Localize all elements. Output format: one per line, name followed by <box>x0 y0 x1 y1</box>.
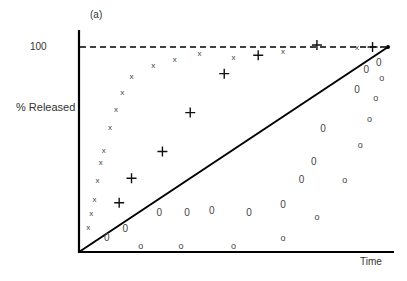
data-markers: xxxxxxxxxxxxxxxx0000000000000oooooooooo <box>86 40 384 251</box>
o-marker: o <box>280 233 285 243</box>
plus-marker <box>157 147 167 157</box>
zero-order-diagonal-line <box>79 47 388 252</box>
o-marker: o <box>358 140 363 150</box>
o-marker: o <box>314 212 319 222</box>
zero-marker: 0 <box>157 207 163 218</box>
o-marker: o <box>342 175 347 185</box>
y-axis-label: % Released <box>16 101 75 113</box>
zero-marker: 0 <box>364 64 370 75</box>
x-marker: x <box>96 176 100 185</box>
plus-marker <box>114 198 124 208</box>
o-marker: o <box>138 241 143 251</box>
o-marker: o <box>178 241 183 251</box>
plus-marker <box>219 69 229 79</box>
x-marker: x <box>102 146 106 155</box>
plus-marker <box>253 50 263 60</box>
x-marker: x <box>108 123 112 132</box>
zero-marker: 0 <box>299 174 305 185</box>
x-marker: x <box>120 88 124 97</box>
x-marker: x <box>232 53 236 62</box>
o-marker: o <box>231 241 236 251</box>
plus-marker <box>368 42 378 52</box>
plus-marker <box>312 40 322 50</box>
plus-marker <box>127 173 137 183</box>
zero-marker: 0 <box>123 223 129 234</box>
x-axis-label: Time <box>360 256 382 267</box>
diagonal-endpoint-dot <box>386 45 390 49</box>
x-marker: x <box>114 105 118 114</box>
zero-marker: 0 <box>104 232 110 243</box>
plot-lines <box>78 30 394 253</box>
y-tick-100: 100 <box>30 41 47 52</box>
zero-marker: 0 <box>209 205 215 216</box>
x-marker: x <box>173 55 177 64</box>
o-marker: o <box>373 93 378 103</box>
x-marker: x <box>198 49 202 58</box>
panel-label: (a) <box>90 9 102 20</box>
zero-marker: 0 <box>246 207 252 218</box>
plus-marker <box>185 108 195 118</box>
o-marker: o <box>379 73 384 83</box>
x-marker: x <box>281 47 285 56</box>
x-marker: x <box>92 195 96 204</box>
zero-marker: 0 <box>311 156 317 167</box>
x-marker: x <box>130 72 134 81</box>
x-marker: x <box>151 61 155 70</box>
zero-marker: 0 <box>376 57 382 68</box>
o-marker: o <box>367 114 372 124</box>
zero-marker: 0 <box>354 84 360 95</box>
x-marker: x <box>89 209 93 218</box>
zero-marker: 0 <box>320 123 326 134</box>
x-marker: x <box>99 158 103 167</box>
release-profile-chart: xxxxxxxxxxxxxxxx0000000000000oooooooooo <box>0 0 407 281</box>
x-marker: x <box>86 223 90 232</box>
zero-marker: 0 <box>184 207 190 218</box>
zero-marker: 0 <box>280 199 286 210</box>
x-marker: x <box>355 43 359 52</box>
